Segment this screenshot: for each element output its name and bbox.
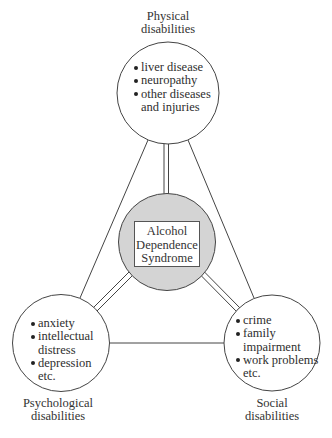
bullet-icon xyxy=(31,335,35,339)
center-label-line: Dependence xyxy=(135,239,199,253)
item-text: and injuries xyxy=(141,100,200,114)
title-line: disabilities xyxy=(118,23,218,36)
list-item: distress xyxy=(38,344,94,357)
item-text: other diseases xyxy=(141,87,211,101)
item-text: crime xyxy=(243,313,271,327)
connector-center-physical xyxy=(164,144,169,194)
item-text: anxiety xyxy=(38,316,75,330)
center-label-box: Alcohol Dependence Syndrome xyxy=(134,221,200,267)
list-item: anxiety xyxy=(38,317,94,330)
connector-center-social xyxy=(201,272,240,312)
physical-items: liver disease neuropathy other diseases … xyxy=(141,61,211,114)
bullet-icon xyxy=(134,66,138,70)
item-text: neuropathy xyxy=(141,73,197,87)
list-item: family xyxy=(243,327,318,340)
item-text: liver disease xyxy=(141,60,203,74)
list-item: crime xyxy=(243,314,318,327)
list-item: impairment xyxy=(243,341,318,354)
list-item: etc. xyxy=(38,370,94,383)
social-items: crime family impairment work problems et… xyxy=(243,314,318,380)
bullet-icon xyxy=(236,332,240,336)
item-text: intellectual xyxy=(38,329,94,343)
social-title: Social disabilities xyxy=(222,397,322,423)
item-text: etc. xyxy=(243,366,261,380)
title-line: disabilities xyxy=(222,410,322,423)
list-item: depression xyxy=(38,357,94,370)
connector-center-psychological xyxy=(93,272,133,312)
physical-title: Physical disabilities xyxy=(118,10,218,36)
center-label-line: Syndrome xyxy=(135,252,199,266)
psychological-items: anxiety intellectual distress depression… xyxy=(38,317,94,383)
item-text: family xyxy=(243,326,276,340)
bullet-icon xyxy=(31,322,35,326)
bullet-icon xyxy=(134,79,138,83)
item-text: impairment xyxy=(243,340,301,354)
center-label-line: Alcohol xyxy=(135,225,199,239)
list-item: and injuries xyxy=(141,101,211,114)
title-line: disabilities xyxy=(8,410,108,423)
list-item: neuropathy xyxy=(141,74,211,87)
item-text: distress xyxy=(38,343,76,357)
item-text: depression xyxy=(38,356,91,370)
list-item: intellectual xyxy=(38,330,94,343)
list-item: work problems xyxy=(243,354,318,367)
psychological-title: Psychological disabilities xyxy=(8,397,108,423)
list-item: etc. xyxy=(243,367,318,380)
list-item: liver disease xyxy=(141,61,211,74)
bullet-icon xyxy=(236,319,240,323)
item-text: etc. xyxy=(38,369,56,383)
list-item: other diseases xyxy=(141,88,211,101)
item-text: work problems xyxy=(243,353,318,367)
